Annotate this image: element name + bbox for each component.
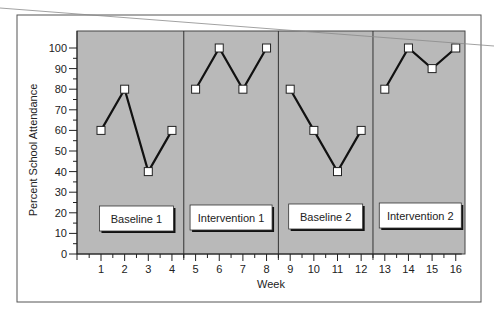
- x-tick-label: 5: [193, 263, 199, 275]
- data-point-marker: [121, 85, 129, 93]
- y-tick-label: 60: [55, 124, 67, 136]
- y-tick-label: 0: [61, 248, 67, 260]
- data-point-marker: [357, 126, 365, 134]
- data-point-marker: [428, 65, 436, 73]
- single-case-design-chart: 0102030405060708090100 12345678910111213…: [0, 0, 494, 315]
- phase-label-text: Intervention 2: [387, 210, 454, 222]
- y-tick-label: 70: [55, 104, 67, 116]
- y-axis-title: Percent School Attendance: [27, 84, 39, 217]
- data-point-marker: [144, 168, 152, 176]
- data-point-marker: [381, 85, 389, 93]
- y-tick-label: 40: [55, 166, 67, 178]
- x-tick-label: 16: [450, 263, 462, 275]
- phase-label-text: Baseline 2: [300, 211, 351, 223]
- y-tick-label: 30: [55, 186, 67, 198]
- x-axis-title: Week: [257, 278, 285, 290]
- data-point-marker: [97, 126, 105, 134]
- x-tick-label: 11: [332, 263, 343, 275]
- x-tick-label: 10: [308, 263, 320, 275]
- y-tick-label: 80: [55, 83, 67, 95]
- y-tick-label: 100: [49, 42, 67, 54]
- data-point-marker: [334, 168, 342, 176]
- x-tick-label: 14: [402, 263, 414, 275]
- data-point-marker: [239, 85, 247, 93]
- phase-label-text: Intervention 1: [198, 212, 265, 224]
- x-tick-label: 6: [216, 263, 222, 275]
- data-point-marker: [404, 44, 412, 52]
- y-tick-label: 90: [55, 63, 67, 75]
- phase-label-text: Baseline 1: [111, 213, 162, 225]
- data-point-marker: [452, 44, 460, 52]
- x-tick-label: 12: [355, 263, 367, 275]
- x-tick-label: 2: [122, 263, 128, 275]
- x-tick-label: 7: [240, 263, 246, 275]
- data-point-marker: [168, 126, 176, 134]
- x-tick-label: 4: [169, 263, 175, 275]
- y-tick-label: 10: [55, 227, 67, 239]
- y-tick-label: 20: [55, 207, 67, 219]
- x-tick-label: 8: [263, 263, 269, 275]
- data-point-marker: [286, 85, 294, 93]
- x-tick-label: 1: [98, 263, 104, 275]
- data-point-marker: [310, 126, 318, 134]
- y-tick-label: 50: [55, 145, 67, 157]
- data-point-marker: [263, 44, 271, 52]
- data-point-marker: [192, 85, 200, 93]
- x-tick-label: 13: [379, 263, 391, 275]
- data-point-marker: [215, 44, 223, 52]
- x-tick-label: 3: [145, 263, 151, 275]
- x-tick-label: 9: [287, 263, 293, 275]
- x-tick-label: 15: [426, 263, 438, 275]
